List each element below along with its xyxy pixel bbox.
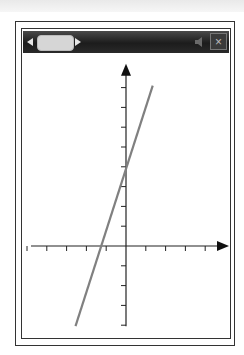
x-axis-arrow-icon	[217, 241, 229, 251]
data-series	[76, 86, 153, 327]
graph-plot-area	[0, 0, 244, 355]
axes	[27, 64, 229, 326]
y-axis-arrow-icon	[121, 64, 131, 76]
plotted-line	[76, 86, 153, 327]
